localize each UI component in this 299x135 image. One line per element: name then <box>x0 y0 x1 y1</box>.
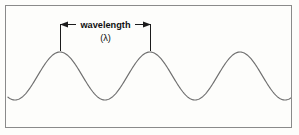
wavelength-label: wavelength <box>79 20 130 30</box>
wave-diagram-canvas: wavelength (λ) <box>0 0 299 135</box>
figure-background <box>0 0 299 135</box>
lambda-symbol-label: (λ) <box>100 33 111 43</box>
wavelength-figure: wavelength (λ) <box>0 0 299 135</box>
